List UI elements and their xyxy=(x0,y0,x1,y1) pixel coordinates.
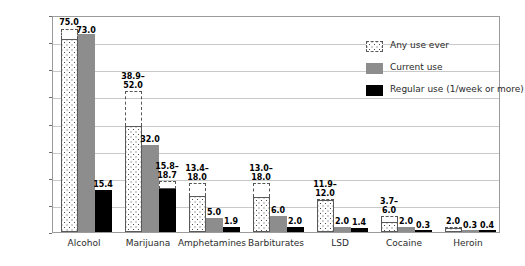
plot-area: 75.073.015.438.9–52.032.015.8–18.713.4–1… xyxy=(52,16,500,233)
value-label: 13.0–18.0 xyxy=(244,164,279,182)
bar-amphetamines-regular xyxy=(223,227,240,232)
range-extension xyxy=(125,91,142,127)
x-tick-label-heroin: Heroin xyxy=(428,238,508,248)
value-label: 1.4 xyxy=(342,218,377,227)
bar-group: 13.0–18.06.02.0 xyxy=(253,15,304,232)
value-label: 73.0 xyxy=(69,26,104,35)
bar-alcohol-current xyxy=(78,34,95,232)
bar-alcohol-regular xyxy=(95,190,112,232)
bar-marijuana-current xyxy=(142,145,159,232)
bar-alcohol-any xyxy=(61,39,78,232)
dotted-swatch-icon xyxy=(366,41,383,52)
range-extension xyxy=(189,183,206,195)
gray-swatch-icon xyxy=(366,63,383,74)
black-swatch-icon xyxy=(366,85,383,96)
bar-group: 2.00.30.4 xyxy=(445,15,496,232)
range-extension xyxy=(253,183,270,197)
legend-label: Any use ever xyxy=(390,40,449,50)
value-label: 32.0 xyxy=(133,135,168,144)
bar-heroin-regular xyxy=(479,230,496,232)
y-tick-mark xyxy=(49,233,52,234)
value-label: 6.0 xyxy=(261,206,296,215)
value-label: 11.9–12.0 xyxy=(308,180,343,198)
bar-chart: Percent 01020304050607080 75.073.015.438… xyxy=(0,0,525,266)
bar-marijuana-regular xyxy=(159,189,176,232)
value-label: 1.9 xyxy=(214,217,249,226)
range-extension xyxy=(317,199,334,200)
value-label: 3.7–6.0 xyxy=(372,197,407,215)
bar-lsd-regular xyxy=(351,228,368,232)
value-label: 13.4–18.0 xyxy=(180,164,215,182)
value-label: 0.4 xyxy=(470,221,505,230)
legend-label: Current use xyxy=(390,62,443,72)
bar-heroin-current xyxy=(462,230,479,232)
bar-group: 75.073.015.4 xyxy=(61,15,112,232)
bar-lsd-current xyxy=(334,227,351,232)
bar-group: 13.4–18.05.01.9 xyxy=(189,15,240,232)
value-label: 38.9–52.0 xyxy=(116,72,151,90)
bar-cocaine-regular xyxy=(415,230,432,232)
bar-group: 38.9–52.032.015.8–18.7 xyxy=(125,15,176,232)
bar-group: 11.9–12.02.01.4 xyxy=(317,15,368,232)
value-label: 15.4 xyxy=(86,180,121,189)
legend-label: Regular use (1/week or more) xyxy=(390,84,524,94)
bar-barbiturates-regular xyxy=(287,227,304,232)
value-label: 2.0 xyxy=(278,217,313,226)
range-extension xyxy=(159,181,176,189)
